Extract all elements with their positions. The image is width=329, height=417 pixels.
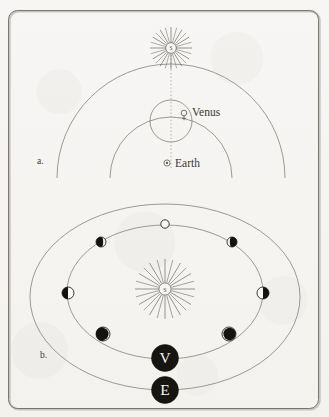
panel-a-ptolemaic: S Venus Earth [57, 27, 285, 178]
venus-symbol-icon [181, 110, 187, 120]
earth-label: Earth [175, 157, 200, 169]
venus-disc-letter: V [159, 349, 171, 366]
panel-b-copernican: S [30, 204, 300, 404]
sun-symbol-letter-b: S [163, 287, 166, 293]
venus-phase-half-left [62, 287, 74, 299]
sun-glyph-panel-a: S [150, 27, 192, 69]
earth-symbol-icon [164, 160, 170, 166]
sun-symbol-letter-a: S [170, 45, 173, 51]
venus-phase-half-right [257, 287, 269, 299]
panel-label-a: a. [37, 156, 44, 166]
venus-phase-gibbous-upper-left [96, 237, 106, 247]
earth-arc [110, 117, 232, 178]
earth-disc-letter: E [160, 381, 169, 398]
astronomy-figure: S Venus Earth [0, 0, 329, 417]
venus-phase-full-top [161, 220, 169, 228]
earth-body-disc: E [152, 377, 179, 404]
panel-label-b: b. [40, 350, 47, 360]
venus-label: Venus [192, 106, 221, 118]
venus-phase-crescent-lower-right [222, 327, 236, 341]
venus-body-disc: V [152, 345, 179, 372]
figure-plate: S Venus Earth [0, 0, 329, 417]
venus-phase-gibbous-upper-right [227, 237, 237, 247]
sun-glyph-panel-b: S [135, 259, 195, 319]
venus-phase-crescent-lower-left [96, 327, 110, 341]
